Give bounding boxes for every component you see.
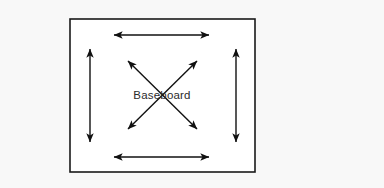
diagram-canvas: Baseboard (0, 0, 384, 188)
baseboard-expansion-diagram: Baseboard (0, 0, 384, 188)
baseboard-label: Baseboard (133, 89, 190, 101)
